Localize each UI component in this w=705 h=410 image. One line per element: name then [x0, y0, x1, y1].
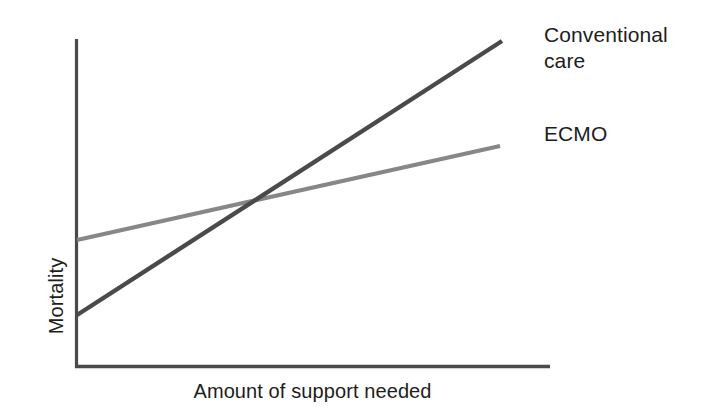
- series-line-conventional-care: [77, 41, 502, 315]
- x-axis-label: Amount of support needed: [75, 378, 550, 404]
- series-line-ecmo: [77, 146, 500, 240]
- chart-figure: Conventional care ECMO Mortality Amount …: [0, 0, 705, 410]
- y-axis-label: Mortality: [43, 216, 69, 376]
- series-label-conventional-care: Conventional care: [544, 22, 694, 74]
- series-label-ecmo: ECMO: [544, 121, 694, 147]
